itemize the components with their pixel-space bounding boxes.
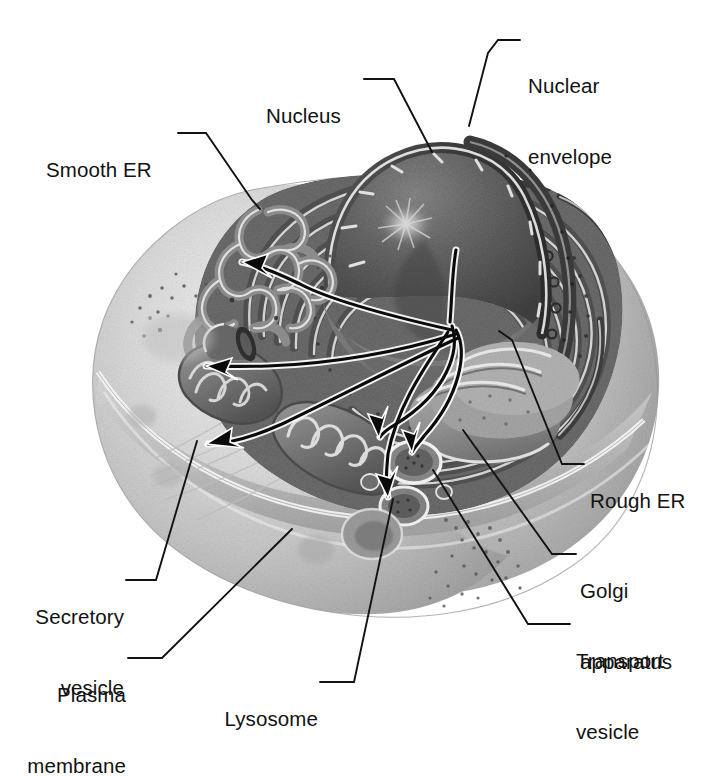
label-nucleus: Nucleus [266, 57, 364, 175]
leader-transport-vesicle [433, 470, 570, 624]
leader-nuclear-envelope [469, 40, 520, 126]
leader-smooth-er [178, 133, 260, 209]
leader-rough-er [499, 331, 584, 464]
leader-lysosome [320, 499, 393, 682]
leader-secretory-vesicle [126, 441, 197, 580]
label-smooth-er: Smooth ER [46, 111, 178, 229]
label-transport-vesicle: Transport vesicle [576, 602, 702, 777]
label-lysosome: Lysosome [180, 660, 318, 777]
label-plasma-membrane: Plasma membrane [0, 636, 126, 777]
leader-plasma-membrane [128, 529, 292, 658]
label-nuclear-envelope: Nuclear envelope [528, 27, 698, 215]
leader-golgi [463, 430, 576, 554]
leader-nucleus [364, 79, 432, 152]
